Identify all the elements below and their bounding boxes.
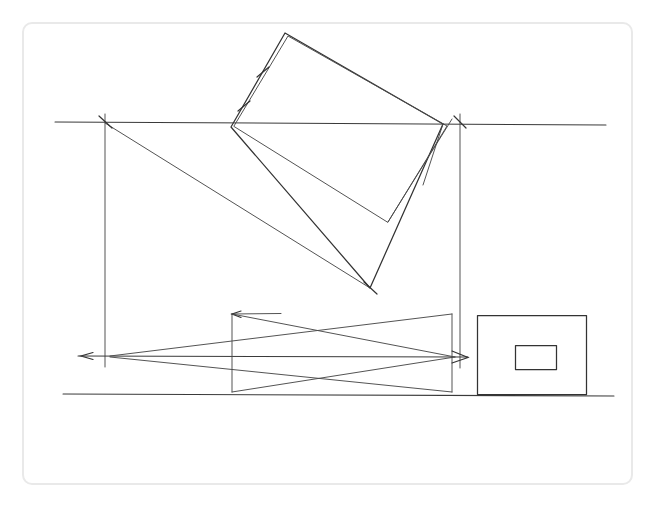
technical-drawing-svg — [0, 0, 663, 505]
drawing-canvas: Hand-drawn descriptive geometry construc… — [0, 0, 663, 505]
page-frame — [23, 23, 632, 484]
lower-box-top-arrow-shaft — [232, 314, 281, 315]
